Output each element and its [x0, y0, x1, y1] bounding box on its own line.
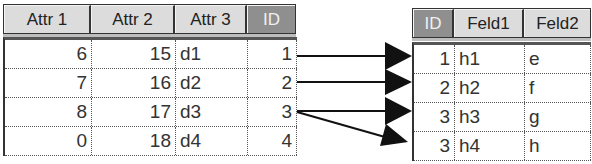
arrow-2-to-2: [297, 69, 412, 95]
arrow-3-to-3: [297, 97, 412, 125]
arrow-1-to-1: [297, 42, 412, 70]
relation-arrows: [0, 0, 592, 164]
